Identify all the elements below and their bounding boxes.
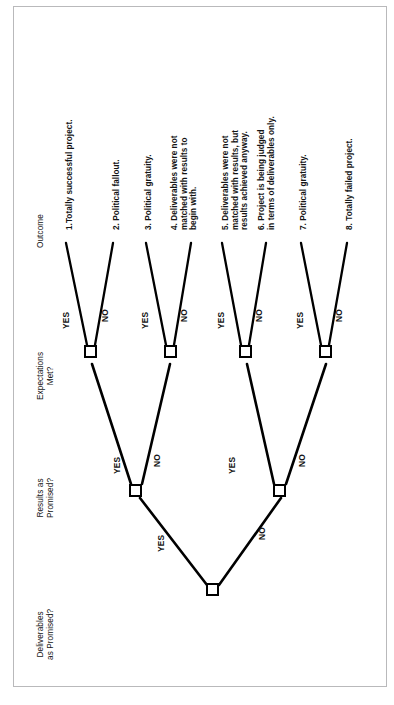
outcome-label-1: 1.Totally successful project. bbox=[65, 119, 75, 230]
branch-label-e2-yes: YES bbox=[141, 312, 151, 329]
tree-edges bbox=[0, 0, 394, 705]
node-root[interactable] bbox=[206, 583, 219, 596]
branch-label-e1-yes: YES bbox=[62, 312, 72, 329]
edge-e4-no bbox=[329, 243, 347, 345]
column-header-outcome: Outcome bbox=[36, 214, 46, 248]
edge-e3-no bbox=[249, 243, 266, 345]
edge-e3-yes bbox=[222, 243, 241, 345]
branch-label-root-no: NO bbox=[258, 527, 268, 540]
edge-e4-yes bbox=[301, 243, 321, 345]
branch-label-e3-no: NO bbox=[255, 309, 265, 322]
outcome-label-6: 6. Project is being judged in terms of d… bbox=[257, 116, 276, 230]
outcome-label-5: 5. Deliverables were not matched with re… bbox=[221, 130, 250, 230]
node-e1[interactable] bbox=[84, 345, 97, 358]
branch-label-e4-yes: YES bbox=[296, 312, 306, 329]
node-r-yes[interactable] bbox=[129, 484, 142, 497]
node-e3[interactable] bbox=[239, 345, 252, 358]
outcome-label-7: 7. Political gratuity. bbox=[299, 154, 309, 230]
outcome-label-4: 4. Deliverables were not matched with re… bbox=[170, 136, 199, 231]
branch-label-e3-yes: YES bbox=[217, 312, 227, 329]
branch-label-e1-no: NO bbox=[101, 309, 111, 322]
branch-label-root-yes: YES bbox=[157, 535, 167, 552]
outcome-label-3: 3. Political gratuity. bbox=[144, 154, 154, 230]
column-header-expectations: Expectations Met? bbox=[36, 352, 55, 400]
branch-label-e4-no: NO bbox=[335, 309, 345, 322]
edge-e1-yes bbox=[66, 243, 87, 345]
branch-label-ryes-yes: YES bbox=[113, 457, 123, 474]
branch-label-ryes-no: NO bbox=[153, 454, 163, 467]
column-header-deliverables: Deliverables as Promised? bbox=[36, 609, 55, 660]
edge-root-no bbox=[219, 498, 281, 585]
node-e2[interactable] bbox=[164, 345, 177, 358]
edge-e2-no bbox=[174, 243, 191, 345]
edge-rno-yes bbox=[247, 364, 274, 484]
edge-root-yes bbox=[140, 498, 207, 585]
branch-label-e2-no: NO bbox=[180, 309, 190, 322]
branch-label-rno-yes: YES bbox=[228, 457, 238, 474]
outcome-label-8: 8. Totally failed project. bbox=[345, 138, 355, 230]
column-header-results: Results as Promised? bbox=[36, 478, 55, 518]
edge-e2-yes bbox=[146, 243, 166, 345]
branch-label-rno-no: NO bbox=[298, 454, 308, 467]
edge-e1-no bbox=[95, 243, 113, 345]
decision-tree-figure: Deliverables as Promised? Results as Pro… bbox=[0, 0, 394, 705]
node-r-no[interactable] bbox=[273, 484, 286, 497]
node-e4[interactable] bbox=[319, 345, 332, 358]
outcome-label-2: 2. Political fallout. bbox=[112, 159, 122, 230]
